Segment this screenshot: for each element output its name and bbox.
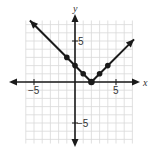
data-point xyxy=(105,63,111,69)
y-axis-down-arrow-icon xyxy=(72,139,79,147)
y-axis-up-arrow-icon xyxy=(72,14,79,22)
function-graph xyxy=(30,21,134,86)
data-point xyxy=(80,71,86,77)
axes xyxy=(9,14,140,147)
data-point xyxy=(72,63,78,69)
x-axis-right-arrow-icon xyxy=(132,79,140,86)
y-axis-label: y xyxy=(72,3,78,14)
data-point xyxy=(88,79,95,86)
x-tick-label-neg5: −5 xyxy=(28,85,40,96)
x-tick-label-pos5: 5 xyxy=(113,85,119,96)
data-point xyxy=(64,55,70,61)
data-point xyxy=(97,71,103,77)
x-axis-label: x xyxy=(142,77,148,88)
y-tick-label-pos5: 5 xyxy=(78,36,84,47)
y-tick-label-neg5: −5 xyxy=(77,118,89,129)
coordinate-plane: x y −5 5 5 −5 xyxy=(0,0,161,162)
x-axis-left-arrow-icon xyxy=(9,79,17,86)
